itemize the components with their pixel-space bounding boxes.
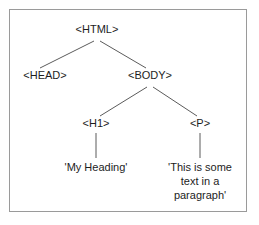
node-html: <HTML> [76,23,119,35]
nodes-group: <HTML><HEAD><BODY><H1><P> [23,23,210,129]
leaf-line: text in a [181,175,220,187]
dom-tree-diagram: <HTML><HEAD><BODY><H1><P> 'My Heading''T… [0,0,259,225]
leaf-line: 'My Heading' [65,161,128,173]
edges-group [40,41,200,158]
node-h1: <H1> [83,117,110,129]
leaf-line: 'This is some [168,161,232,173]
leaves-group: 'My Heading''This is sometext in aparagr… [65,161,232,201]
leaf-paragraph-text: 'This is sometext in aparagraph' [168,161,232,201]
edge-body-p [153,87,197,116]
leaf-heading-text: 'My Heading' [65,161,128,173]
node-body: <BODY> [128,69,172,81]
node-p: <P> [190,117,210,129]
leaf-line: paragraph' [174,189,226,201]
node-head: <HEAD> [23,69,66,81]
edge-html-body [100,41,146,68]
edge-html-head [40,41,94,68]
edge-body-h1 [100,87,147,116]
